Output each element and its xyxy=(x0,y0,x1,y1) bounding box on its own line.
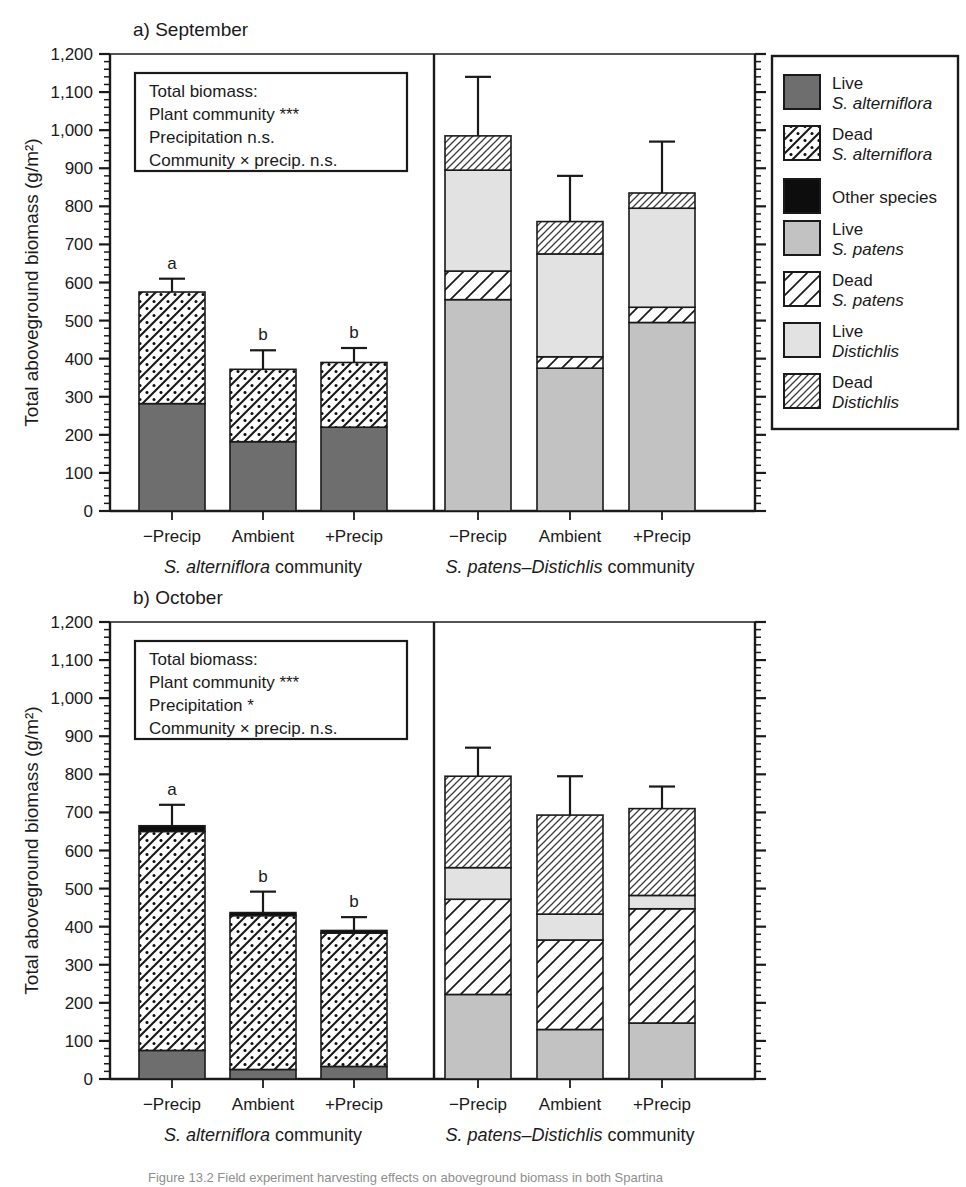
panel-title-a: a) September xyxy=(133,19,249,40)
stats-line: Precipitation * xyxy=(149,696,254,715)
community-name: S. alterniflora xyxy=(164,557,270,577)
stats-line: Community × precip. n.s. xyxy=(149,151,338,170)
bar-segment xyxy=(629,809,695,896)
y-tick-label: 200 xyxy=(65,426,93,445)
bar-segment xyxy=(445,300,511,511)
bar-segment xyxy=(139,404,205,511)
bar-segment xyxy=(321,1066,387,1079)
bar-segment xyxy=(537,368,603,511)
y-tick-label: 800 xyxy=(65,197,93,216)
y-tick-label: 1,100 xyxy=(50,83,93,102)
x-tick-label: Ambient xyxy=(232,1095,295,1114)
stats-line: Precipitation n.s. xyxy=(149,128,275,147)
community-label: S. patens–Distichlis community xyxy=(445,1125,694,1145)
significance-letter: b xyxy=(258,325,267,344)
y-tick-label: 400 xyxy=(65,918,93,937)
y-tick-label: 1,000 xyxy=(50,689,93,708)
y-tick-label: 1,200 xyxy=(50,45,93,64)
significance-letter: b xyxy=(258,867,267,886)
bar-segment xyxy=(139,826,205,832)
bar-segment xyxy=(321,930,387,933)
community-label: S. patens–Distichlis community xyxy=(445,557,694,577)
y-tick-label: 600 xyxy=(65,274,93,293)
bar-segment xyxy=(537,914,603,940)
bar-segment xyxy=(321,362,387,427)
bar-segment xyxy=(445,271,511,300)
bar-segment xyxy=(537,222,603,254)
y-axis-title-b: Total aboveground biomass (g/m²) xyxy=(21,706,42,994)
bar-segment xyxy=(230,913,296,916)
legend-swatch-dead-distichlis xyxy=(784,374,820,408)
bar-segment xyxy=(445,170,511,271)
bar-segment xyxy=(537,254,603,357)
biomass-figure: a) September0100200300400500600700800900… xyxy=(0,0,966,1187)
bar-segment xyxy=(629,322,695,511)
legend-label-line2: S. patens xyxy=(832,240,904,259)
y-tick-label: 200 xyxy=(65,994,93,1013)
community-label: S. alterniflora community xyxy=(164,557,362,577)
legend-swatch-live-patens xyxy=(784,221,820,255)
x-tick-label: Ambient xyxy=(539,1095,602,1114)
community-label: S. alterniflora community xyxy=(164,1125,362,1145)
bar-segment xyxy=(629,895,695,908)
y-tick-label: 1,200 xyxy=(50,613,93,632)
stats-line: Plant community *** xyxy=(149,673,300,692)
x-tick-label: +Precip xyxy=(325,1095,383,1114)
legend-label-line2: S. alterniflora xyxy=(832,94,932,113)
bar-segment xyxy=(445,899,511,994)
y-tick-label: 800 xyxy=(65,765,93,784)
y-axis-title-a: Total aboveground biomass (g/m²) xyxy=(21,138,42,426)
y-tick-label: 400 xyxy=(65,350,93,369)
y-tick-label: 100 xyxy=(65,464,93,483)
legend-label-line1: Dead xyxy=(832,125,873,144)
community-name: S. patens–Distichlis xyxy=(445,1125,602,1145)
panel-title-b: b) October xyxy=(133,587,223,608)
legend-label-line1: Live xyxy=(832,74,863,93)
legend-label-line1: Live xyxy=(832,322,863,341)
community-name: S. alterniflora xyxy=(164,1125,270,1145)
bar-segment xyxy=(321,427,387,511)
community-suffix: community xyxy=(270,557,362,577)
y-tick-label: 900 xyxy=(65,727,93,746)
legend-swatch-dead-alterniflora xyxy=(784,126,820,160)
y-tick-label: 300 xyxy=(65,956,93,975)
legend-swatch-live-distichlis xyxy=(784,323,820,357)
y-tick-label: 700 xyxy=(65,803,93,822)
x-tick-label: −Precip xyxy=(449,1095,507,1114)
bar-segment xyxy=(629,307,695,322)
community-suffix: community xyxy=(603,1125,695,1145)
bar-segment xyxy=(629,1023,695,1079)
x-tick-label: +Precip xyxy=(325,527,383,546)
significance-letter: a xyxy=(167,780,177,799)
legend-label-line1: Dead xyxy=(832,271,873,290)
bar-segment xyxy=(629,193,695,208)
y-tick-label: 700 xyxy=(65,235,93,254)
community-name: S. patens–Distichlis xyxy=(445,557,602,577)
legend-swatch-other-species xyxy=(784,179,820,213)
x-tick-label: −Precip xyxy=(143,527,201,546)
bar-segment xyxy=(445,776,511,867)
legend-label-line2: Distichlis xyxy=(832,342,900,361)
significance-letter: a xyxy=(167,254,177,273)
figure-caption: Figure 13.2 Field experiment harvesting … xyxy=(148,1170,664,1185)
y-tick-label: 500 xyxy=(65,312,93,331)
stats-header-a: Total biomass: xyxy=(149,82,258,101)
bar-segment xyxy=(230,1069,296,1079)
y-tick-label: 0 xyxy=(84,502,93,521)
stats-line: Plant community *** xyxy=(149,105,300,124)
x-tick-label: +Precip xyxy=(633,527,691,546)
y-tick-label: 100 xyxy=(65,1032,93,1051)
stats-line: Community × precip. n.s. xyxy=(149,719,338,738)
x-tick-label: −Precip xyxy=(143,1095,201,1114)
legend-label-line1: Other species xyxy=(832,188,937,207)
bar-segment xyxy=(230,916,296,1070)
legend-swatch-dead-patens xyxy=(784,272,820,306)
bar-segment xyxy=(139,831,205,1050)
bar-segment xyxy=(445,868,511,900)
bar-segment xyxy=(537,940,603,1029)
bar-segment xyxy=(537,815,603,914)
x-tick-label: −Precip xyxy=(449,527,507,546)
y-tick-label: 600 xyxy=(65,842,93,861)
figure-root: a) September0100200300400500600700800900… xyxy=(0,0,966,1187)
y-tick-label: 300 xyxy=(65,388,93,407)
